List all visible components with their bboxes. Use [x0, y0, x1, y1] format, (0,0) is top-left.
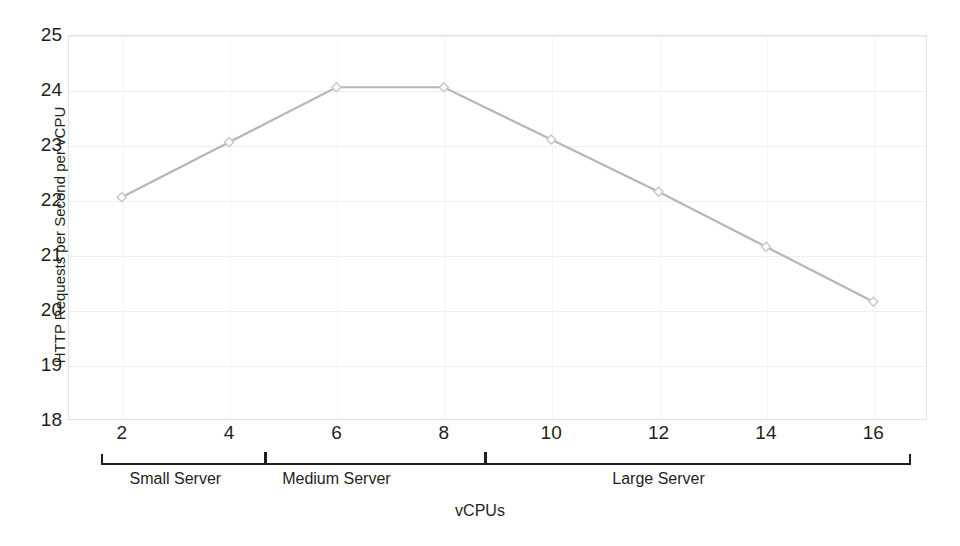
- group-label: Large Server: [549, 468, 769, 490]
- y-tick-label: 20: [28, 300, 62, 319]
- data-series-line: [68, 35, 927, 420]
- x-axis-title: vCPUs: [0, 500, 960, 522]
- data-point-marker: [332, 83, 341, 92]
- y-tick-label: 19: [28, 355, 62, 374]
- data-point-marker: [225, 138, 234, 147]
- x-tick-label: 8: [414, 421, 474, 445]
- data-point-marker: [761, 242, 770, 251]
- y-tick-label: 23: [28, 135, 62, 154]
- bracket-left-end: [101, 454, 103, 465]
- y-axis-tick-labels: 2524232221201918: [14, 35, 62, 420]
- data-point-marker: [547, 135, 556, 144]
- series-polyline: [122, 87, 874, 302]
- bracket-baseline: [101, 463, 911, 465]
- server-group-labels: Small ServerMedium ServerLarge Server: [101, 468, 911, 494]
- data-point-marker: [654, 187, 663, 196]
- group-label: Medium Server: [226, 468, 446, 490]
- y-tick-label: 22: [28, 190, 62, 209]
- y-tick-label: 25: [28, 25, 62, 44]
- y-tick-label: 18: [28, 410, 62, 429]
- x-tick-label: 12: [629, 421, 689, 445]
- data-point-marker: [439, 83, 448, 92]
- x-tick-label: 4: [199, 421, 259, 445]
- x-tick-label: 16: [843, 421, 903, 445]
- bracket-right-end: [909, 454, 911, 465]
- chart-figure: HTTP Requests per Second per vCPU 252423…: [0, 0, 960, 546]
- data-point-marker: [869, 297, 878, 306]
- y-tick-label: 24: [28, 80, 62, 99]
- series-markers: [117, 83, 878, 307]
- x-tick-label: 14: [736, 421, 796, 445]
- y-tick-label: 21: [28, 245, 62, 264]
- x-tick-label: 10: [521, 421, 581, 445]
- bracket-divider-small-medium: [264, 452, 267, 465]
- data-point-marker: [117, 193, 126, 202]
- x-tick-label: 2: [92, 421, 152, 445]
- x-tick-label: 6: [306, 421, 366, 445]
- bracket-divider-medium-large: [484, 452, 487, 465]
